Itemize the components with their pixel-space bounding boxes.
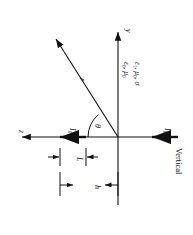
- lower-medium-label: ε1, μ0, σ: [132, 62, 142, 85]
- angle-label-theta: θ: [93, 124, 102, 128]
- orientation-note-vertical: Vertical: [174, 148, 184, 175]
- dimension-L-label: L: [75, 156, 84, 162]
- dipole-current-label: I0: [67, 127, 77, 134]
- y-axis-label: y: [124, 28, 133, 33]
- antenna-geometry-diagram: y z ε0, μ0 ε1, μ0, σ r θ I0 I0 L h Verti…: [0, 0, 193, 235]
- radial-ray-r: [56, 39, 118, 137]
- dimension-h-group: [60, 172, 118, 196]
- z-axis-label: z: [17, 129, 26, 134]
- axis-group: [22, 32, 178, 205]
- upper-mu-subscript: 0: [121, 75, 127, 78]
- dimension-h-label: h: [93, 185, 102, 189]
- radial-ray-group: [56, 39, 118, 137]
- lower-sigma-symbol: σ: [133, 81, 142, 85]
- image-current-subscript: 0: [162, 131, 168, 134]
- figure-root: y z ε0, μ0 ε1, μ0, σ r θ I0 I0 L h Verti…: [0, 0, 193, 235]
- dimension-L-group: [48, 148, 98, 166]
- dipole-current-subscript: 0: [67, 131, 73, 134]
- upper-medium-label: ε0, μ0: [121, 62, 131, 78]
- image-current-label: I0: [162, 127, 172, 134]
